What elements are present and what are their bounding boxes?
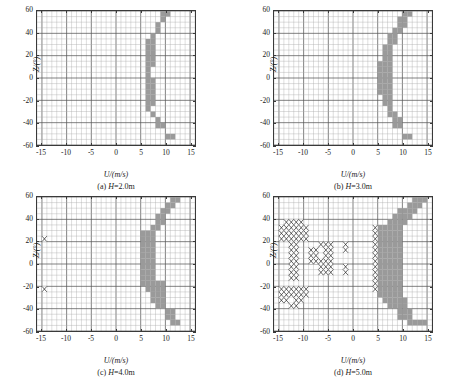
gray-cell [151,39,156,45]
panel-caption-d: (d) H=5.0m [273,368,433,377]
x-tick-label: 5 [139,335,143,343]
gray-cell [378,292,383,298]
gray-cell [388,225,393,231]
plot-area-c[interactable] [36,196,196,332]
y-tick-mark-right [430,196,433,197]
x-tick-mark [278,143,279,146]
gray-cell [383,72,388,78]
gray-cell [378,286,383,292]
y-tick-mark-right [193,264,196,265]
y-tick-label: 0 [266,260,270,268]
gray-cell [383,236,388,242]
y-tick-mark [273,146,276,147]
plot-area-b[interactable] [273,10,433,146]
gray-cell [393,275,398,281]
x-tick-mark-top [428,10,429,13]
gray-cell [397,264,402,270]
gray-cell [156,292,161,298]
gray-cell [393,258,398,264]
gray-cell [151,84,156,90]
gray-cell [417,320,422,326]
gray-cell [378,231,383,237]
y-tick-mark-right [430,241,433,242]
x-tick-mark [91,329,92,332]
gray-cell [146,247,151,253]
x-tick-label: -15 [273,149,283,157]
x-tick-mark-top [116,196,117,199]
y-tick-mark [36,264,39,265]
x-tick-label: 10 [162,149,170,157]
gray-cell [393,28,398,34]
x-tick-label: -10 [61,335,71,343]
gray-cell [407,203,412,209]
x-tick-label: 10 [162,335,170,343]
gray-cell [146,61,151,67]
plot-area-a[interactable] [36,10,196,146]
gray-cell [397,275,402,281]
x-tick-mark-top [91,196,92,199]
gray-cell [388,247,393,253]
gray-cell [388,67,393,73]
gray-cell [160,123,165,129]
gray-cell [393,270,398,276]
plot-area-d[interactable] [273,196,433,332]
gray-cell [160,286,165,292]
gray-cell [146,264,151,270]
gray-cell [388,89,393,95]
y-tick-label: 60 [263,6,271,14]
gray-cell [393,303,398,309]
y-tick-label: 60 [26,192,34,200]
x-tick-mark [378,329,379,332]
gray-cell [156,298,161,304]
x-tick-mark [66,143,67,146]
gray-cell [141,275,146,281]
gray-cell [393,219,398,225]
gray-cell [388,33,393,39]
gray-cell [146,95,151,101]
gray-cell [407,11,412,17]
x-tick-mark-top [278,10,279,13]
x-tick-mark-top [303,196,304,199]
gray-cell [151,258,156,264]
x-tick-mark-top [66,10,67,13]
gray-cell [151,33,156,39]
gray-cell [141,242,146,248]
y-tick-label: -40 [23,306,33,314]
x-tick-mark-top [278,196,279,199]
gray-cell [383,67,388,73]
gray-cell [388,303,393,309]
gray-cell [383,61,388,67]
caption-value: =5.0m [351,368,372,377]
y-tick-mark-right [430,332,433,333]
y-tick-mark-right [430,287,433,288]
gray-cell [393,247,398,253]
gray-cell [383,286,388,292]
gray-cell [417,203,422,209]
x-tick-mark [328,143,329,146]
gray-cell [397,270,402,276]
gray-cell [156,22,161,28]
x-tick-mark [166,143,167,146]
gray-cell [378,253,383,259]
gray-cell [393,112,398,118]
y-tick-mark [36,332,39,333]
gray-cell [383,84,388,90]
gray-cell [141,253,146,259]
x-tick-label: -15 [36,335,46,343]
y-tick-label: 60 [263,192,271,200]
gray-cell [388,231,393,237]
x-tick-label: 5 [376,149,380,157]
gray-cell [383,231,388,237]
gray-cell [402,309,407,315]
x-tick-mark [428,143,429,146]
gray-cell [170,320,175,326]
gray-cell [383,270,388,276]
y-tick-mark-right [193,287,196,288]
x-tick-mark [191,143,192,146]
y-tick-mark [36,196,39,197]
gray-cell [141,258,146,264]
gray-cell [388,264,393,270]
x-tick-label: 15 [187,335,195,343]
gray-cell [160,219,165,225]
gray-cell [146,242,151,248]
